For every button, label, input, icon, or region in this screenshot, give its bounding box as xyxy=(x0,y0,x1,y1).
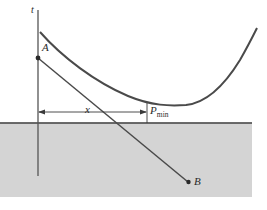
figure-canvas xyxy=(0,0,267,210)
pmin-label: Pmin xyxy=(150,105,169,116)
pmin-base: P xyxy=(150,104,157,116)
geometry-figure: t A x Pmin B xyxy=(0,0,267,210)
t-axis-label: t xyxy=(31,5,34,15)
x-dimension-arrow-right xyxy=(140,109,147,114)
point-a-marker xyxy=(36,56,41,61)
point-a-label: A xyxy=(42,42,49,53)
parabola-curve xyxy=(40,28,257,105)
x-dimension-arrow-left xyxy=(38,109,45,114)
point-b-marker xyxy=(186,180,190,184)
point-b-label: B xyxy=(194,176,201,187)
distance-x-label: x xyxy=(85,104,90,115)
pmin-subscript: min xyxy=(157,110,169,119)
